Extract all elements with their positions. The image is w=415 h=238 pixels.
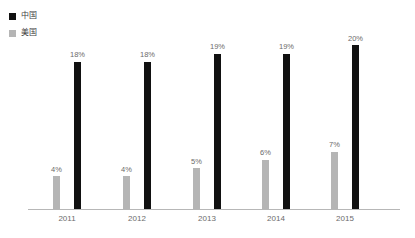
bar-label-china-2011: 18% <box>70 51 85 59</box>
x-tick-2013: 2013 <box>187 214 227 223</box>
bar-usa-2011[interactable] <box>53 176 60 209</box>
bar-china-2014[interactable] <box>283 54 290 209</box>
bar-label-china-2015: 20% <box>348 35 363 43</box>
plot-area: 4% 18% 4% 18% 5% <box>0 0 415 238</box>
bar-label-china-2014: 19% <box>279 43 294 51</box>
bar-label-china-2013: 19% <box>210 43 225 51</box>
bar-label-china-2012: 18% <box>140 51 155 59</box>
bar-label-usa-2012: 4% <box>121 166 132 174</box>
bar-group-2012: 4% 18% <box>123 29 151 209</box>
bar-label-usa-2013: 5% <box>191 158 202 166</box>
bar-china-2012[interactable] <box>144 62 151 209</box>
bar-label-usa-2015: 7% <box>329 141 340 149</box>
bar-usa-2015[interactable] <box>331 152 338 209</box>
bar-group-2015: 7% 20% <box>331 29 359 209</box>
bar-label-usa-2014: 6% <box>260 149 271 157</box>
x-tick-2015: 2015 <box>325 214 365 223</box>
bar-usa-2013[interactable] <box>193 168 200 209</box>
x-tick-2011: 2011 <box>47 214 87 223</box>
bar-group-2011: 4% 18% <box>53 29 81 209</box>
x-tick-2012: 2012 <box>117 214 157 223</box>
bar-label-usa-2011: 4% <box>51 166 62 174</box>
x-tick-2014: 2014 <box>256 214 296 223</box>
bar-usa-2014[interactable] <box>262 160 269 209</box>
bar-group-2013: 5% 19% <box>193 29 221 209</box>
x-axis-line <box>28 209 400 210</box>
bar-china-2013[interactable] <box>214 54 221 209</box>
bar-chart: 中国 美国 4% 18% 4% <box>0 0 415 238</box>
bar-usa-2012[interactable] <box>123 176 130 209</box>
bar-china-2015[interactable] <box>352 45 359 209</box>
bar-china-2011[interactable] <box>74 62 81 209</box>
bar-group-2014: 6% 19% <box>262 29 290 209</box>
